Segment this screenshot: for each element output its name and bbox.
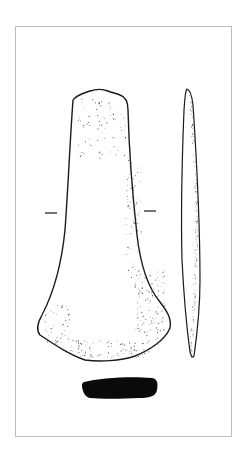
stipple-dot: [126, 234, 127, 235]
stipple-dot: [134, 223, 135, 224]
stipple-dot: [141, 312, 142, 313]
stipple-dot: [189, 350, 190, 351]
stipple-dot: [158, 290, 159, 291]
stipple-dot: [125, 125, 126, 126]
stipple-dot: [137, 245, 138, 246]
stipple-dot: [126, 218, 127, 219]
stipple-dot: [87, 123, 88, 124]
stipple-dot: [162, 272, 163, 273]
stipple-dot: [192, 142, 193, 143]
stipple-dot: [196, 216, 197, 217]
stipple-dot: [136, 350, 137, 351]
stipple-dot: [197, 236, 198, 237]
stipple-dot: [76, 342, 77, 343]
stipple-dot: [159, 280, 160, 281]
stipple-dot: [191, 350, 192, 351]
stipple-dot: [121, 343, 122, 344]
stipple-dot: [73, 351, 74, 352]
stipple-dot: [101, 102, 102, 103]
stipple-dot: [196, 154, 197, 155]
stipple-dot: [149, 340, 150, 341]
stipple-dot: [118, 150, 119, 151]
stipple-dot: [124, 130, 125, 131]
stipple-dot: [192, 307, 193, 308]
stipple-dot: [139, 213, 140, 214]
stipple-dot: [132, 267, 133, 268]
stipple-dot: [137, 230, 138, 231]
stipple-dot: [196, 160, 197, 161]
stipple-dot: [79, 118, 80, 119]
stipple-dot: [78, 346, 79, 347]
stipple-dot: [155, 314, 156, 315]
stipple-dot: [120, 127, 121, 128]
stipple-dot: [85, 345, 86, 346]
stipple-dot: [193, 284, 194, 285]
stipple-dot: [131, 187, 132, 188]
stipple-dot: [133, 190, 134, 191]
stipple-dot: [81, 155, 82, 156]
stipple-dot: [138, 289, 139, 290]
stipple-dot: [106, 122, 107, 123]
stipple-dot: [101, 132, 102, 133]
stipple-dot: [46, 314, 47, 315]
stipple-dot: [139, 297, 140, 298]
stipple-dot: [195, 302, 196, 303]
stipple-dot: [64, 330, 65, 331]
stipple-dot: [130, 202, 131, 203]
stipple-dot: [141, 261, 142, 262]
stipple-dot: [104, 138, 105, 139]
stipple-dot: [140, 306, 141, 307]
stipple-dot: [197, 218, 198, 219]
stipple-dot: [194, 302, 195, 303]
stipple-dot: [163, 303, 164, 304]
stipple-dot: [140, 275, 141, 276]
stipple-dot: [196, 258, 197, 259]
stipple-dot: [197, 235, 198, 236]
stipple-dot: [137, 309, 138, 310]
stipple-dot: [158, 323, 159, 324]
stipple-dot: [83, 153, 84, 154]
stipple-dot: [89, 357, 90, 358]
stipple-dot: [115, 154, 116, 155]
stipple-dot: [195, 283, 196, 284]
stipple-dot: [98, 102, 99, 103]
stipple-dot: [132, 197, 133, 198]
stipple-dot: [143, 322, 144, 323]
stipple-dot: [45, 329, 46, 330]
stipple-dot: [196, 266, 197, 267]
stipple-dot: [51, 332, 52, 333]
stipple-dot: [149, 291, 150, 292]
stipple-dot: [78, 341, 79, 342]
stipple-dot: [61, 307, 62, 308]
stipple-dot: [138, 243, 139, 244]
stipple-dot: [193, 278, 194, 279]
stipple-dot: [109, 102, 110, 103]
stipple-dot: [196, 229, 197, 230]
stipple-dot: [196, 192, 197, 193]
stipple-dot: [110, 108, 111, 109]
stipple-dot: [196, 236, 197, 237]
stipple-dot: [89, 116, 90, 117]
stipple-dot: [147, 333, 148, 334]
stipple-dot: [100, 105, 101, 106]
stipple-dot: [163, 329, 164, 330]
stipple-dot: [193, 334, 194, 335]
stipple-dot: [97, 115, 98, 116]
stipple-dot: [135, 285, 136, 286]
stipple-dot: [195, 296, 196, 297]
illustration: [0, 0, 249, 450]
stipple-dot: [138, 356, 139, 357]
stipple-dot: [123, 353, 124, 354]
stipple-dot: [130, 208, 131, 209]
stipple-dot: [195, 238, 196, 239]
stipple-dot: [191, 331, 192, 332]
stipple-dot: [82, 102, 83, 103]
stipple-dot: [125, 138, 126, 139]
stipple-dot: [140, 329, 141, 330]
stipple-dot: [162, 311, 163, 312]
stipple-dot: [131, 226, 132, 227]
stipple-dot: [127, 199, 128, 200]
stipple-dot: [150, 317, 151, 318]
stipple-dot: [193, 136, 194, 137]
stipple-dot: [148, 351, 149, 352]
